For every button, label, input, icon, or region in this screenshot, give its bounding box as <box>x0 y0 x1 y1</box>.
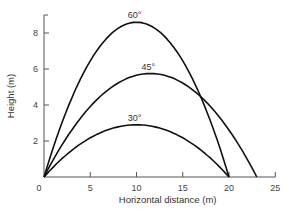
y-tick-label: 2 <box>33 136 38 146</box>
x-tick-label: 5 <box>88 183 93 193</box>
curve-label-30deg: 30° <box>128 113 142 123</box>
y-tick-label: 8 <box>33 28 38 38</box>
curve-label-45deg: 45° <box>142 62 156 72</box>
x-tick-label: 25 <box>270 183 280 193</box>
x-tick-label: 0 <box>36 183 41 193</box>
y-axis-title: Height (m) <box>5 74 16 118</box>
trajectory-30deg <box>44 125 229 177</box>
trajectory-curves <box>44 22 257 177</box>
axes: 05101520252468Horizontal distance (m)Hei… <box>5 15 280 205</box>
x-tick-label: 15 <box>178 183 188 193</box>
curve-label-60deg: 60° <box>128 10 142 20</box>
x-tick-label: 10 <box>131 183 141 193</box>
projectile-trajectory-chart: 05101520252468Horizontal distance (m)Hei… <box>0 0 294 213</box>
x-tick-label: 20 <box>224 183 234 193</box>
y-tick-label: 6 <box>33 64 38 74</box>
y-tick-label: 4 <box>33 100 38 110</box>
trajectory-60deg <box>44 22 229 177</box>
x-axis-title: Horizontal distance (m) <box>119 194 217 205</box>
